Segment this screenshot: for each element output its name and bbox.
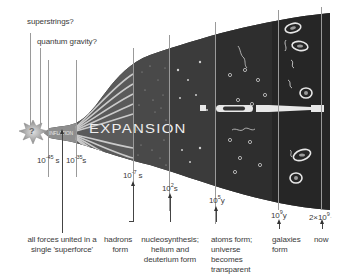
event-now: now	[314, 235, 328, 245]
tick-label-1e-7s: 10-7 s	[123, 171, 142, 181]
tick-label-1e-35s: 10-35s	[66, 156, 86, 166]
superstrings-label: superstrings?	[27, 17, 74, 27]
arrow-now	[322, 223, 323, 229]
hadrons-leader	[129, 221, 133, 222]
event-atoms: atoms form;universebecomestransparent	[211, 235, 252, 275]
event-hadrons: hadronsform	[104, 235, 128, 255]
arrow-hadrons	[133, 185, 134, 222]
question-mark: ?	[29, 126, 34, 136]
tick-line-now	[321, 7, 322, 210]
universe-timeline-diagram: ? INFLATION EXPANSION superstrings? quan…	[0, 0, 346, 276]
quantum-gravity-label: quantum gravity?	[37, 37, 97, 47]
expansion-label: EXPANSION	[89, 122, 187, 136]
tick-label-1e-45s: 10-45 s	[37, 156, 59, 166]
superstrings-line	[30, 33, 31, 125]
arrow-nucleosynthesis	[170, 197, 171, 222]
tick-line-1e9y	[278, 10, 279, 210]
tick-label-1e5y: 105y	[209, 196, 225, 206]
event-nucleosynthesis: nucleosynthesis;helium anddeuterium form	[141, 235, 199, 265]
quantum-gravity-line	[40, 48, 41, 125]
arrow-superforce	[62, 133, 63, 233]
arrow-atoms	[216, 210, 217, 222]
event-superforce: all forces united in asingle 'superforce…	[28, 235, 97, 255]
event-galaxies: galaxiesform	[272, 235, 301, 255]
tick-line-1e5y	[215, 22, 216, 224]
arrow-galaxies	[279, 223, 280, 229]
